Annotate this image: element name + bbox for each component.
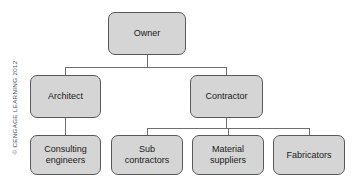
org-chart-canvas: © CENGAGE LEARNING 2012 Owner Architect … — [0, 0, 359, 191]
node-owner[interactable]: Owner — [108, 12, 186, 55]
copyright-notice: © CENGAGE LEARNING 2012 — [0, 0, 20, 191]
node-contractor[interactable]: Contractor — [190, 75, 263, 118]
node-material-suppliers[interactable]: Material suppliers — [192, 135, 264, 175]
node-sub-contractors[interactable]: Sub contractors — [111, 135, 183, 175]
copyright-text: © CENGAGE LEARNING 2012 — [11, 48, 18, 168]
node-fabricators[interactable]: Fabricators — [273, 135, 345, 175]
node-consulting-engineers[interactable]: Consulting engineers — [30, 135, 101, 175]
node-architect[interactable]: Architect — [30, 75, 101, 118]
